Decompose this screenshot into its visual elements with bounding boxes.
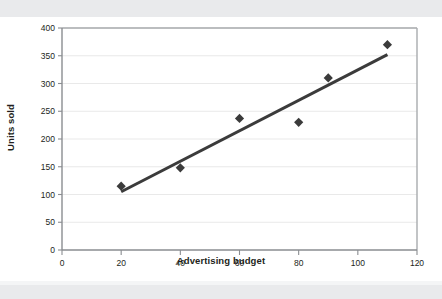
y-axis-tick-label: 200 (41, 134, 55, 144)
y-axis-tick-label: 400 (41, 23, 55, 33)
y-axis-tick-label: 50 (46, 217, 56, 227)
chart-canvas: 050100150200250300350400020406080100120 (0, 17, 442, 285)
y-axis-tick-label: 150 (41, 162, 55, 172)
y-axis-tick-label: 300 (41, 79, 55, 89)
x-axis-title: Advertising budget (0, 255, 442, 266)
y-axis-title: Units sold (5, 88, 16, 168)
scatter-chart-figure: 050100150200250300350400020406080100120 … (0, 17, 442, 285)
y-axis-tick-label: 0 (50, 245, 55, 255)
page-band-top (0, 0, 442, 17)
y-axis-tick-label: 100 (41, 190, 55, 200)
y-axis-tick-label: 350 (41, 51, 55, 61)
page-band-bottom (0, 285, 442, 299)
y-axis-tick-label: 250 (41, 106, 55, 116)
